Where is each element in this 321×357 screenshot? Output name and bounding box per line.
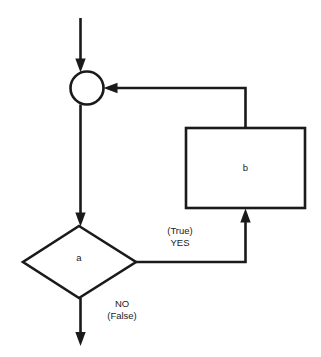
body-rectangle-label: b xyxy=(243,162,248,173)
true-branch-label-paren: (True) xyxy=(167,225,193,236)
edge-junction-to-condition xyxy=(75,105,85,227)
entry-arrow-head-icon xyxy=(75,59,85,73)
true-branch-label-word: YES xyxy=(170,237,189,248)
flowchart-svg: a b (True) YES NO (False) xyxy=(0,0,321,357)
loopback-line xyxy=(112,88,246,128)
false-branch-label-word: NO xyxy=(115,298,129,309)
false-branch-arrow-head-icon xyxy=(75,332,85,346)
true-branch-arrow-head-icon xyxy=(240,209,250,223)
edge-condition-true xyxy=(136,209,251,263)
flowchart-canvas: a b (True) YES NO (False) xyxy=(0,0,321,357)
edge-entry-arrow xyxy=(75,18,85,73)
edge-body-to-junction xyxy=(104,83,246,128)
condition-diamond-label: a xyxy=(76,252,82,263)
loopback-arrow-head-icon xyxy=(104,83,118,93)
false-branch-label-paren: (False) xyxy=(107,310,137,321)
junction-circle-node[interactable] xyxy=(71,72,104,105)
edge-condition-false xyxy=(75,298,85,346)
junction-to-condition-arrow-head-icon xyxy=(75,213,85,227)
